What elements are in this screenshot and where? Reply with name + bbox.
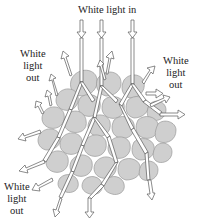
label-line: light [20, 60, 46, 72]
label-white-light-out-left-lower: White light out [4, 181, 30, 217]
incoming-ray-3 [128, 20, 137, 84]
label-line: White [4, 181, 30, 193]
label-text: White light in [78, 4, 136, 16]
label-white-light-out-left-upper: White light out [20, 48, 46, 84]
label-white-light-out-right-upper: White light out [163, 55, 189, 91]
label-line: White [163, 55, 189, 67]
label-line: White [20, 48, 46, 60]
label-white-light-in: White light in [78, 4, 136, 16]
label-line: out [163, 79, 189, 91]
label-line: out [4, 205, 30, 217]
label-line: light [163, 67, 189, 79]
label-line: out [20, 72, 46, 84]
label-line: light [4, 193, 30, 205]
